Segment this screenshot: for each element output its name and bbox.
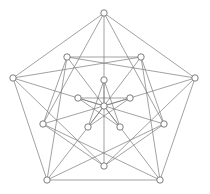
edge-O1-M3	[104, 78, 195, 166]
edge-M2-M3	[104, 124, 164, 166]
edge-O3-M0	[47, 57, 67, 180]
graph-edges	[13, 13, 195, 180]
node-I0	[101, 77, 107, 83]
node-O1	[192, 75, 198, 81]
edge-M4-M0	[43, 57, 67, 124]
edge-O0-O1	[104, 13, 195, 78]
edge-O2-M1	[141, 57, 160, 180]
edge-C-I3	[88, 106, 104, 127]
edge-O3-O4	[13, 78, 47, 180]
edge-O2-I2	[120, 127, 160, 180]
node-O0	[101, 10, 107, 16]
edge-O1-M0	[67, 57, 195, 78]
edge-C-I1	[104, 98, 130, 106]
edge-O2-M4	[43, 124, 160, 180]
node-O2	[157, 177, 163, 183]
node-M2	[161, 121, 167, 127]
edge-C-I2	[104, 106, 120, 127]
edge-O4-M1	[13, 57, 141, 78]
node-M3	[101, 163, 107, 169]
edge-O3-M2	[47, 124, 164, 180]
edge-O1-O2	[160, 78, 195, 180]
node-I1	[127, 95, 133, 101]
edge-O4-O0	[13, 13, 104, 78]
edge-C-I4	[78, 98, 104, 106]
node-M4	[40, 121, 46, 127]
edge-O3-I3	[47, 127, 88, 180]
node-M0	[64, 54, 70, 60]
edge-O4-M3	[13, 78, 104, 166]
edge-O4-I4	[13, 78, 78, 98]
graph-diagram	[0, 0, 210, 194]
edge-M1-M2	[141, 57, 164, 124]
node-C	[101, 103, 107, 109]
node-I4	[75, 95, 81, 101]
edge-M3-M4	[43, 124, 104, 166]
edge-O1-I1	[130, 78, 195, 98]
node-O3	[44, 177, 50, 183]
node-M1	[138, 54, 144, 60]
node-I2	[117, 124, 123, 130]
node-I3	[85, 124, 91, 130]
node-O4	[10, 75, 16, 81]
